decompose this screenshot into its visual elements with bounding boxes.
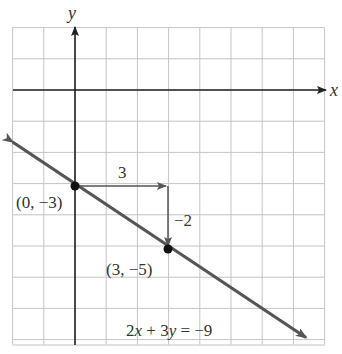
y-axis-label: y xyxy=(66,3,76,23)
run-label: 3 xyxy=(118,163,127,182)
point2-label: (3, −5) xyxy=(106,260,152,279)
coordinate-plane: x y 3 −2 (0, −3) (3, −5) 2x + 3y = −9 xyxy=(0,0,342,354)
x-axis-label: x xyxy=(329,80,338,100)
rise-label: −2 xyxy=(174,211,192,230)
point1-label: (0, −3) xyxy=(16,193,62,212)
point-3-neg5 xyxy=(164,245,173,254)
point-0-neg3 xyxy=(71,182,80,191)
equation-label: 2x + 3y = −9 xyxy=(126,321,212,340)
